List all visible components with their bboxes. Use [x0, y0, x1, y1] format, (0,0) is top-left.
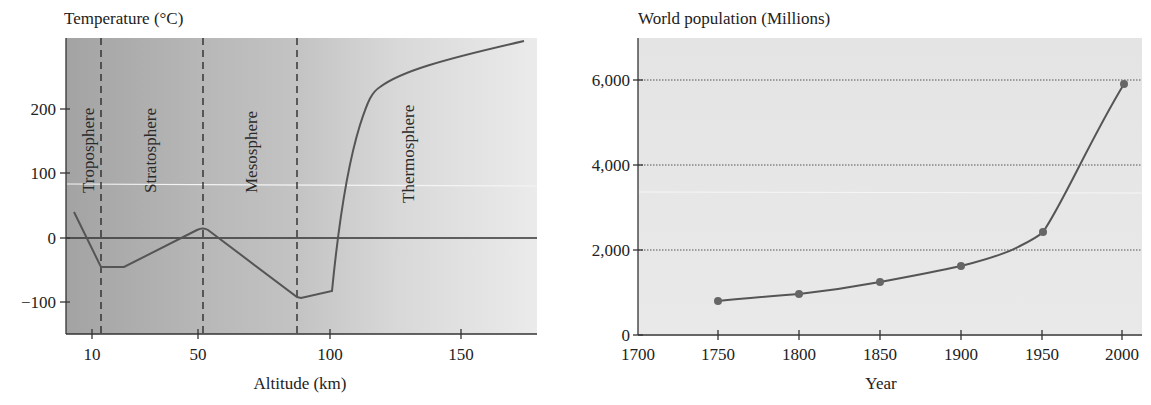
x-tick-label: 10: [84, 345, 101, 364]
data-point-1850: [876, 278, 884, 286]
figure: Temperature (°C) 200 100 0 −100: [0, 0, 1151, 405]
region-label-mesosphere: Mesosphere: [242, 111, 261, 193]
plot-background: [638, 38, 1142, 334]
data-point-1950: [1039, 228, 1047, 236]
data-point-1900: [957, 262, 965, 270]
y-tick-label: 6,000: [592, 71, 630, 90]
x-tick-label: 50: [190, 345, 207, 364]
x-tick-label: 150: [448, 345, 474, 364]
region-label-troposphere: Troposphere: [79, 108, 98, 193]
y-tick-label: 4,000: [592, 156, 630, 175]
population-chart: World population (Millions) 6,000 4,000 …: [592, 9, 1142, 393]
chart-title: World population (Millions): [638, 9, 830, 28]
y-tick-label: 0: [48, 229, 57, 248]
data-point-2000: [1120, 80, 1128, 88]
y-tick-label: 100: [31, 164, 57, 183]
x-tick-label: 100: [317, 345, 343, 364]
x-tick-label: 2000: [1105, 345, 1139, 364]
region-label-thermosphere: Thermosphere: [399, 105, 418, 203]
temperature-chart: Temperature (°C) 200 100 0 −100: [21, 9, 537, 393]
data-point-1750: [714, 297, 722, 305]
chart-title: Temperature (°C): [64, 9, 183, 28]
x-tick-label: 1750: [701, 345, 735, 364]
x-tick-label: 1800: [782, 345, 816, 364]
x-tick-label: 1700: [621, 345, 655, 364]
x-tick-label: 1900: [944, 345, 978, 364]
x-tick-label: 1850: [863, 345, 897, 364]
x-tick-label: 1950: [1025, 345, 1059, 364]
x-axis-label: Year: [865, 374, 897, 393]
data-point-1800: [795, 290, 803, 298]
y-tick-label: −100: [21, 293, 56, 312]
x-axis-label: Altitude (km): [253, 374, 346, 393]
region-label-stratosphere: Stratosphere: [141, 108, 160, 193]
y-tick-label: 0: [622, 326, 631, 345]
y-tick-label: 2,000: [592, 241, 630, 260]
y-tick-label: 200: [31, 100, 57, 119]
